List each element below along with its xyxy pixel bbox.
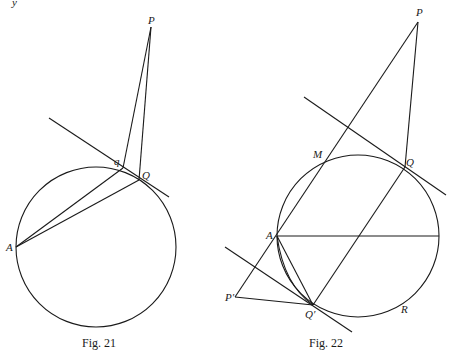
segment-PQ [405,22,418,167]
figure-22: P M Q A P′ Q′ R Fig. 22 [224,6,446,350]
line-P-Pprime [235,22,418,297]
label-M: M [312,148,323,160]
segment-PQ [139,27,151,180]
circle [16,167,176,327]
tangent-line [49,118,169,197]
upper-tangent [304,97,446,195]
figure-21: P q Q A Fig. 21 [5,14,176,350]
segment-Pq [123,27,151,168]
figure-caption: Fig. 21 [82,336,116,350]
segment-AQ [16,180,139,247]
label-q: q [114,155,120,167]
label-A: A [5,241,13,253]
label-R: R [400,303,408,315]
geometry-figures: y P q Q A Fig. 21 P M Q A P′ Q′ R Fig. 2… [0,0,455,354]
label-Q: Q [142,169,150,181]
corner-glyph: y [11,0,17,8]
label-Q-prime: Q′ [305,308,316,320]
segment-Aq [16,168,123,247]
lower-tangent [225,247,352,332]
label-A: A [265,229,273,241]
label-P: P [147,14,155,26]
segment-A-Qprime [277,236,313,305]
label-P-prime: P′ [224,291,235,303]
label-P: P [415,6,423,18]
label-Q: Q [406,156,414,168]
figure-caption: Fig. 22 [309,336,343,350]
